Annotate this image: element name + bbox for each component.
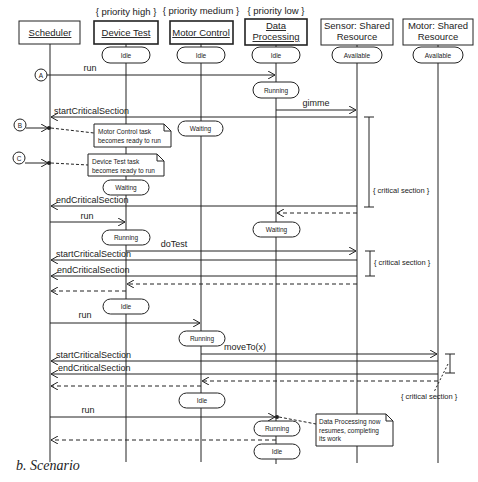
svg-text:Waiting: Waiting bbox=[190, 125, 212, 133]
svg-text:Idle: Idle bbox=[196, 52, 207, 59]
stereotype-data-processing: { priority low } bbox=[247, 5, 304, 16]
state-motor-control-idle-1: Idle bbox=[177, 47, 225, 63]
state-motor-control-idle-2: Idle bbox=[179, 393, 225, 408]
message-label-do-test: doTest bbox=[161, 239, 188, 249]
resume-dot bbox=[275, 415, 279, 419]
critical-section-label-2: { critical section } bbox=[374, 258, 431, 267]
svg-text:Available: Available bbox=[425, 52, 452, 59]
message-label-run-4: run bbox=[81, 405, 94, 415]
lifeline-head-motor-control: Motor Control bbox=[170, 21, 233, 44]
svg-text:Idle: Idle bbox=[272, 448, 283, 455]
lifeline-head-scheduler: Scheduler bbox=[19, 21, 80, 44]
event-b-dot bbox=[47, 126, 51, 130]
message-label-end-cs-3: endCriticalSection bbox=[58, 363, 131, 373]
svg-text:becomes ready to run: becomes ready to run bbox=[98, 137, 161, 145]
svg-text:becomes ready to run: becomes ready to run bbox=[92, 167, 155, 175]
message-label-run-1: run bbox=[83, 63, 96, 73]
critical-section-link-3 bbox=[434, 364, 448, 392]
stereotype-motor-control: { priority medium } bbox=[163, 5, 240, 16]
note-motor-control-ready: Motor Control task becomes ready to run bbox=[94, 124, 171, 147]
note-link-c bbox=[51, 163, 88, 165]
lifeline-head-sensor: Sensor: Shared Resource bbox=[321, 19, 393, 45]
lifeline-label-motor-1: Motor: Shared bbox=[408, 20, 468, 31]
svg-text:B: B bbox=[18, 122, 22, 129]
svg-text:A: A bbox=[39, 72, 44, 79]
note-data-processing-resumes: Data Processing now resumes, completing … bbox=[316, 414, 393, 446]
state-motor-available: Available bbox=[413, 47, 463, 63]
state-data-processing-idle-1: Idle bbox=[252, 47, 300, 63]
lifeline-label-motor-2: Resource bbox=[418, 31, 459, 42]
stereotype-device-test: { priority high } bbox=[96, 6, 157, 17]
svg-text:Running: Running bbox=[265, 425, 290, 433]
critical-section-label-3: { critical section } bbox=[401, 392, 458, 401]
svg-text:Waiting: Waiting bbox=[266, 226, 288, 234]
message-label-run-2: run bbox=[80, 211, 93, 221]
message-label-start-cs-1: startCriticalSection bbox=[54, 106, 129, 116]
sequence-diagram: { priority high } { priority medium } { … bbox=[0, 0, 478, 482]
state-device-test-idle-1: Idle bbox=[102, 47, 150, 63]
message-label-end-cs-1: endCriticalSection bbox=[56, 195, 129, 205]
lifeline-label-data-processing-2: Processing bbox=[253, 31, 300, 42]
message-label-start-cs-3: startCriticalSection bbox=[56, 350, 131, 360]
message-label-end-cs-2: endCriticalSection bbox=[57, 265, 130, 275]
state-data-processing-running-1: Running bbox=[253, 82, 299, 98]
svg-text:C: C bbox=[17, 155, 22, 162]
figure-caption: b. Scenario bbox=[16, 458, 80, 474]
svg-text:Running: Running bbox=[114, 234, 139, 242]
event-b: B bbox=[14, 119, 26, 131]
state-data-processing-idle-2: Idle bbox=[254, 444, 300, 459]
state-device-test-waiting: Waiting bbox=[103, 180, 149, 195]
critical-section-label-1: { critical section } bbox=[373, 186, 430, 195]
svg-text:Data Processing now: Data Processing now bbox=[319, 418, 381, 426]
lifeline-head-device-test: Device Test bbox=[94, 21, 158, 44]
message-label-gimme: gimme bbox=[302, 98, 329, 108]
state-device-test-idle-2: Idle bbox=[103, 299, 149, 314]
message-label-run-3: run bbox=[78, 310, 91, 320]
message-label-start-cs-2: startCriticalSection bbox=[56, 249, 131, 259]
note-device-test-ready: Device Test task becomes ready to run bbox=[88, 154, 164, 176]
lifeline-label-data-processing-1: Data bbox=[266, 20, 287, 31]
svg-text:Waiting: Waiting bbox=[115, 184, 137, 192]
note-link-b bbox=[51, 128, 94, 133]
lifeline-label-sensor-1: Sensor: Shared bbox=[324, 20, 390, 31]
state-data-processing-running-2: Running bbox=[254, 421, 300, 436]
message-label-move-to: moveTo(x) bbox=[224, 342, 266, 352]
critical-section-bracket-3 bbox=[445, 354, 455, 373]
state-data-processing-waiting: Waiting bbox=[253, 222, 300, 237]
event-c: C bbox=[13, 152, 25, 164]
svg-text:Idle: Idle bbox=[271, 52, 282, 59]
lifeline-label-motor-control: Motor Control bbox=[172, 27, 230, 38]
svg-text:Idle: Idle bbox=[121, 303, 132, 310]
lifeline-head-motor: Motor: Shared Resource bbox=[403, 19, 473, 45]
event-a: A bbox=[35, 69, 47, 81]
lifeline-label-device-test: Device Test bbox=[102, 27, 151, 38]
svg-text:resumes, completing: resumes, completing bbox=[319, 427, 379, 435]
svg-text:Available: Available bbox=[344, 52, 371, 59]
svg-text:Running: Running bbox=[190, 335, 215, 343]
svg-text:Motor Control task: Motor Control task bbox=[98, 128, 152, 135]
state-sensor-available: Available bbox=[332, 47, 382, 63]
lifeline-label-scheduler: Scheduler bbox=[29, 27, 72, 38]
state-motor-control-waiting: Waiting bbox=[178, 121, 223, 136]
svg-text:Running: Running bbox=[264, 87, 289, 95]
svg-text:Idle: Idle bbox=[121, 52, 132, 59]
svg-text:its work: its work bbox=[319, 435, 342, 442]
lifeline-label-sensor-2: Resource bbox=[337, 31, 378, 42]
state-motor-control-running: Running bbox=[179, 331, 225, 346]
state-device-test-running-1: Running bbox=[102, 230, 150, 245]
event-c-dot bbox=[47, 161, 51, 165]
svg-text:Idle: Idle bbox=[197, 397, 208, 404]
lifeline-head-data-processing: Data Processing bbox=[245, 19, 307, 45]
svg-text:Device Test task: Device Test task bbox=[92, 158, 140, 165]
